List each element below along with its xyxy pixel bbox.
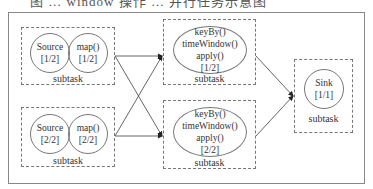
map-label: map() xyxy=(77,122,100,134)
keyby-label: keyBy() xyxy=(194,108,225,120)
sink-node: Sink [1/1] xyxy=(304,69,344,109)
subtask-window-1: keyBy() timeWindow() apply() [1/2] subta… xyxy=(163,19,256,85)
timewindow-label: timeWindow() xyxy=(182,38,238,50)
subtask-sink: Sink [1/1] subtask xyxy=(294,59,353,133)
apply-label: apply() xyxy=(196,132,223,144)
sink-index: [1/1] xyxy=(315,89,333,101)
window-index: [2/2] xyxy=(201,144,219,156)
subtask-source-map-1: Source [1/2] map() [1/2] subtask xyxy=(21,27,115,85)
sink-label: Sink xyxy=(315,77,332,89)
map-node-2: map() [2/2] xyxy=(68,114,108,154)
source-node-1: Source [1/2] xyxy=(30,33,70,73)
subtask-window-2: keyBy() timeWindow() apply() [2/2] subta… xyxy=(163,100,256,169)
source-label: Source xyxy=(37,122,63,134)
subtask-label: subtask xyxy=(22,73,114,84)
subtask-label: subtask xyxy=(22,155,114,166)
source-index: [1/2] xyxy=(41,53,59,65)
source-label: Source xyxy=(37,41,63,53)
subtask-label: subtask xyxy=(164,73,255,84)
map-index: [2/2] xyxy=(79,134,97,146)
map-index: [1/2] xyxy=(79,53,97,65)
timewindow-label: timeWindow() xyxy=(182,120,238,132)
map-node-1: map() [1/2] xyxy=(68,33,108,73)
source-node-2: Source [2/2] xyxy=(30,114,70,154)
window-node-1: keyBy() timeWindow() apply() [1/2] xyxy=(173,26,247,74)
window-node-2: keyBy() timeWindow() apply() [2/2] xyxy=(173,107,247,157)
source-index: [2/2] xyxy=(41,134,59,146)
subtask-label: subtask xyxy=(164,157,255,168)
subtask-source-map-2: Source [2/2] map() [2/2] subtask xyxy=(21,107,115,167)
apply-label: apply() xyxy=(196,50,223,62)
map-label: map() xyxy=(77,41,100,53)
keyby-label: keyBy() xyxy=(194,26,225,38)
subtask-label: subtask xyxy=(295,113,352,124)
